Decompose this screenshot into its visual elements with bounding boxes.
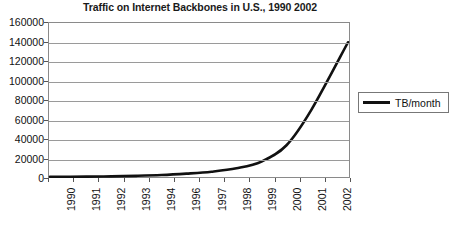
x-tick-mark xyxy=(350,178,351,182)
data-curve-svg xyxy=(49,23,349,177)
chart-screenshot: Traffic on Internet Backbones in U.S., 1… xyxy=(0,0,451,227)
x-tick-mark xyxy=(199,178,200,182)
y-tick-label: 120000 xyxy=(0,56,44,67)
x-tick-mark xyxy=(73,178,74,182)
x-tick-label: 1996 xyxy=(191,188,202,211)
x-tick-mark xyxy=(249,178,250,182)
gridline xyxy=(49,140,349,141)
x-tick-label: 2000 xyxy=(292,188,303,211)
x-tick-label: 1994 xyxy=(166,188,177,211)
x-tick-mark xyxy=(149,178,150,182)
y-tick-label: 60000 xyxy=(0,115,44,126)
gridline xyxy=(49,121,349,122)
x-tick-label: 1992 xyxy=(116,188,127,211)
x-tick-mark xyxy=(48,178,49,182)
plot-area xyxy=(48,22,350,178)
y-tick-label: 20000 xyxy=(0,154,44,165)
x-tick-label: 1991 xyxy=(91,188,102,211)
x-tick-mark xyxy=(174,178,175,182)
x-tick-mark xyxy=(98,178,99,182)
legend: TB/month xyxy=(358,92,449,113)
y-tick-label: 0 xyxy=(0,173,44,184)
x-tick-label: 2001 xyxy=(317,188,328,211)
x-tick-mark xyxy=(124,178,125,182)
legend-line-swatch xyxy=(363,101,390,104)
y-tick-label: 140000 xyxy=(0,37,44,48)
legend-label: TB/month xyxy=(395,97,441,109)
gridline xyxy=(49,62,349,63)
gridline xyxy=(49,160,349,161)
x-tick-label: 1993 xyxy=(141,188,152,211)
gridline xyxy=(49,82,349,83)
gridline xyxy=(49,101,349,102)
y-tick-label: 40000 xyxy=(0,134,44,145)
x-tick-label: 1997 xyxy=(217,188,228,211)
y-tick-label: 80000 xyxy=(0,95,44,106)
x-tick-mark xyxy=(325,178,326,182)
x-tick-mark xyxy=(224,178,225,182)
x-tick-label: 1990 xyxy=(66,188,77,211)
x-tick-label: 1999 xyxy=(267,188,278,211)
x-tick-label: 2002 xyxy=(342,188,353,211)
x-tick-label: 1998 xyxy=(242,188,253,211)
y-tick-label: 160000 xyxy=(0,17,44,28)
x-tick-mark xyxy=(300,178,301,182)
gridline xyxy=(49,43,349,44)
y-tick-label: 100000 xyxy=(0,76,44,87)
x-tick-mark xyxy=(275,178,276,182)
